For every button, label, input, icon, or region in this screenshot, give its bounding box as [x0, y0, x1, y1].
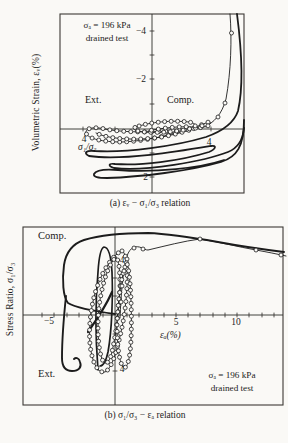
chart-a-data-marker — [129, 130, 133, 134]
chart-b-data-marker — [127, 275, 131, 279]
chart-b-data-marker — [106, 269, 110, 273]
chart-a-data-marker — [97, 132, 101, 136]
chart-a-data-marker — [166, 134, 170, 138]
chart-b-data-marker — [94, 290, 98, 294]
chart-a-data-marker — [115, 129, 119, 133]
chart-b-data-marker — [129, 334, 133, 338]
chart-b-curve-marker-reload-sweep — [120, 239, 286, 318]
chart-b-extension-label: Ext. — [38, 368, 55, 380]
chart-b-data-marker — [123, 306, 127, 310]
chart-b-data-marker — [141, 247, 145, 251]
chart-b-data-marker — [118, 355, 122, 359]
chart-b-data-marker — [92, 360, 96, 364]
chart-a-data-marker — [87, 127, 91, 131]
chart-b-data-marker — [124, 293, 128, 297]
chart-a-data-marker — [189, 120, 193, 124]
chart-b-data-marker — [101, 358, 105, 362]
chart-a-data-marker — [160, 135, 164, 139]
chart-b-data-marker — [198, 237, 202, 241]
chart-b-data-marker — [97, 346, 101, 350]
chart-a-data-marker — [168, 130, 172, 134]
chart-a-compression-label: Comp. — [167, 94, 194, 106]
chart-b-data-marker — [254, 248, 258, 252]
chart-b-data-marker — [103, 275, 107, 279]
chart-b-data-marker — [99, 352, 103, 356]
chart-b-data-marker — [89, 309, 93, 313]
chart-a-data-marker — [94, 126, 98, 130]
chart-b-data-marker — [129, 321, 133, 325]
chart-b-data-marker — [97, 307, 101, 311]
chart-b-data-marker — [88, 315, 92, 319]
chart-b-data-marker — [120, 284, 124, 288]
chart-b-data-marker — [120, 278, 124, 282]
chart-a-caption: (a) εᵥ − σ₁/σ₃ relation — [40, 198, 260, 209]
chart-a-data-marker — [216, 115, 220, 119]
chart-b-data-marker — [90, 302, 94, 306]
chart-b-compression-label: Comp. — [38, 230, 66, 242]
chart-b-y-axis-label: Stress Ratio, σ₁/σ₃ — [5, 214, 16, 384]
chart-a-data-marker — [111, 136, 115, 140]
chart-b-data-marker — [128, 282, 132, 286]
chart-b-data-marker — [110, 348, 114, 352]
chart-b-data-marker — [129, 340, 133, 344]
chart-a-data-marker — [175, 129, 179, 133]
chart-a-tick-label: 2 — [143, 172, 148, 182]
chart-a-curve-marker-rise — [204, 14, 231, 127]
chart-a-data-marker — [163, 126, 167, 130]
chart-a-data-marker — [182, 120, 186, 124]
chart-a-data-marker — [143, 122, 147, 126]
chart-b-data-marker — [96, 320, 100, 324]
chart-b-data-marker — [127, 269, 131, 273]
chart-b-data-marker — [112, 342, 116, 346]
chart-b-data-marker — [95, 366, 99, 370]
chart-a-data-marker — [97, 138, 101, 142]
chart-a-data-marker — [153, 136, 157, 140]
chart-a-y-axis-label: Volumetric Strain, εᵥ(%) — [31, 17, 42, 187]
chart-a-data-marker — [156, 120, 160, 124]
chart-b-data-marker — [96, 326, 100, 330]
chart-b-data-marker — [279, 253, 283, 257]
chart-b-data-marker — [88, 328, 92, 332]
chart-b-data-marker — [116, 258, 120, 262]
chart-b-data-marker — [88, 334, 92, 338]
figure: −4−2244−551044 Volumetric Strain, εᵥ(%) … — [0, 0, 288, 443]
chart-a-data-marker — [176, 119, 180, 123]
chart-a-data-marker — [104, 134, 108, 138]
chart-a-data-marker — [142, 130, 146, 134]
chart-a-x-axis-label: σ₁/σ₃ — [78, 142, 97, 153]
chart-b-data-marker — [112, 257, 116, 261]
chart-b-data-marker — [109, 355, 113, 359]
chart-a-data-marker — [118, 136, 122, 140]
chart-b-data-marker — [102, 281, 106, 285]
chart-b-data-marker — [119, 300, 123, 304]
chart-a-data-marker — [177, 125, 181, 129]
chart-a-extension-label: Ext. — [85, 94, 101, 106]
chart-a-data-marker — [111, 140, 115, 144]
chart-b-data-marker — [116, 342, 120, 346]
chart-b-data-marker — [129, 327, 133, 331]
chart-b-data-marker — [115, 329, 119, 333]
chart-b-data-marker — [128, 353, 132, 357]
chart-a-data-marker — [122, 129, 126, 133]
chart-b-tick-label: 5 — [174, 317, 179, 327]
chart-a-data-marker — [139, 137, 143, 141]
chart-a-data-marker — [90, 136, 94, 140]
chart-a-data-marker — [162, 130, 166, 134]
chart-a-data-marker — [230, 31, 234, 35]
chart-b-x-axis-label: εₐ(%) — [160, 330, 181, 341]
chart-a-data-marker — [193, 124, 197, 128]
chart-b-data-marker — [122, 269, 126, 273]
chart-b-data-marker — [118, 291, 122, 295]
chart-b-data-marker — [116, 349, 120, 353]
chart-b-data-marker — [97, 339, 101, 343]
chart-a-annotation-line2: drained test — [68, 32, 146, 45]
chart-b-data-marker — [99, 294, 103, 298]
chart-a-data-marker — [101, 127, 105, 131]
chart-b-data-marker — [92, 296, 96, 300]
chart-b-tick-label: −5 — [44, 316, 54, 326]
chart-b-data-marker — [106, 360, 110, 364]
chart-b-data-marker — [98, 277, 102, 281]
chart-a-data-marker — [170, 125, 174, 129]
chart-b-data-marker — [129, 308, 133, 312]
chart-a-data-marker — [108, 128, 112, 132]
